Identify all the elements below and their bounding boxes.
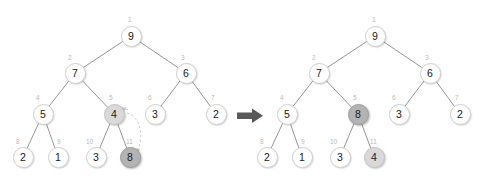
tree-node: 2 [257,147,278,168]
node-index-label: 10 [86,139,93,146]
node-index-label: 3 [181,55,185,62]
node-index-label: 2 [312,55,316,62]
tree-node: 7 [309,63,330,84]
heap-swap-figure: 192736455463728291103118 192736455863728… [0,0,486,180]
tree-node: 9 [121,26,142,47]
node-index-label: 1 [128,17,132,24]
node-index-label: 6 [392,95,396,102]
node-index-label: 10 [330,139,337,146]
tree-node: 5 [277,104,298,125]
tree-node: 3 [145,104,166,125]
tree-node: 2 [450,104,471,125]
tree-node: 2 [13,147,34,168]
node-index-label: 8 [260,139,264,146]
node-index-label: 2 [68,55,72,62]
tree-node: 4 [104,104,125,125]
node-index-label: 4 [280,95,284,102]
node-index-label: 11 [126,139,133,146]
tree-node: 6 [176,63,197,84]
node-index-label: 1 [372,17,376,24]
node-index-label: 9 [301,139,305,146]
tree-node: 8 [348,104,369,125]
node-index-label: 5 [353,95,357,102]
node-index-label: 9 [57,139,61,146]
tree-node: 5 [33,104,54,125]
node-index-label: 8 [16,139,20,146]
transition-arrow-icon [237,108,264,124]
tree-node: 8 [120,147,141,168]
node-index-label: 4 [36,95,40,102]
node-index-label: 5 [109,95,113,102]
node-index-label: 7 [211,95,215,102]
tree-node: 9 [365,26,386,47]
node-index-label: 7 [455,95,459,102]
tree-node: 7 [65,63,86,84]
tree-node: 4 [364,147,385,168]
node-index-label: 6 [148,95,152,102]
tree-before-swap: 192736455463728291103118 [0,0,243,180]
tree-after-swap: 192736455863728291103114 [244,0,486,180]
tree-node: 3 [330,147,351,168]
tree-node: 2 [206,104,227,125]
tree-node: 1 [48,147,69,168]
node-index-label: 3 [425,55,429,62]
tree-node: 6 [420,63,441,84]
tree-node: 3 [389,104,410,125]
tree-node: 1 [292,147,313,168]
tree-node: 3 [86,147,107,168]
node-index-label: 11 [370,139,377,146]
